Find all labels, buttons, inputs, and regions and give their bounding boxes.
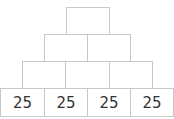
pyramid-cell-r1-c1[interactable] <box>87 34 131 62</box>
pyramid-cell-r3-c0: 25 <box>0 88 45 117</box>
pyramid-cell-r3-c1: 25 <box>44 88 88 117</box>
pyramid-cell-r3-c3: 25 <box>130 88 174 117</box>
pyramid-cell-r0-c0[interactable] <box>66 7 110 35</box>
pyramid-cell-r2-c0[interactable] <box>22 61 66 89</box>
pyramid-cell-r2-c1[interactable] <box>65 61 110 89</box>
pyramid-cell-r1-c0[interactable] <box>44 34 88 62</box>
pyramid-cell-r3-c2: 25 <box>87 88 131 117</box>
pyramid-cell-r2-c2[interactable] <box>109 61 153 89</box>
